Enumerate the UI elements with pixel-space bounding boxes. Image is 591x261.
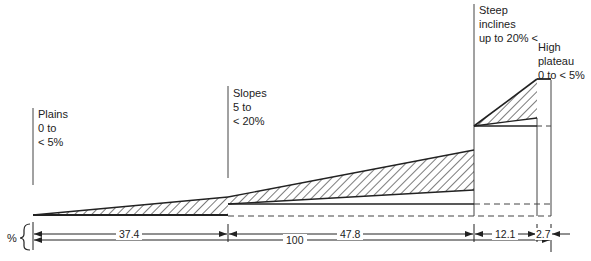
slopes-range-2: < 20% — [233, 114, 267, 128]
steep-width-label: 12.1 — [492, 228, 518, 240]
plains-range-1: 0 to — [38, 121, 68, 135]
plateau-width-label: 2.7 — [535, 228, 552, 240]
plains-width-label: 37.4 — [116, 228, 142, 240]
plateau-label: High plateau 0 to < 5% — [538, 40, 585, 82]
slopes-name: Slopes — [233, 86, 267, 100]
steep-name: Steep — [479, 3, 538, 17]
plateau-name: High — [538, 40, 585, 54]
plains-label: Plains 0 to < 5% — [38, 107, 68, 149]
plateau-range-2: 0 to < 5% — [538, 68, 585, 82]
total-width-label: 100 — [283, 234, 307, 246]
slopes-width-label: 47.8 — [337, 228, 363, 240]
steep-range-2: up to 20% < — [479, 31, 538, 45]
steep-range-1: inclines — [479, 17, 538, 31]
steep-label: Steep inclines up to 20% < — [479, 3, 538, 45]
plateau-range-1: plateau — [538, 54, 585, 68]
slopes-label: Slopes 5 to < 20% — [233, 86, 267, 128]
plains-name: Plains — [38, 107, 68, 121]
percent-unit-label: % — [4, 232, 20, 244]
plains-range-2: < 5% — [38, 135, 68, 149]
slopes-range-1: 5 to — [233, 100, 267, 114]
